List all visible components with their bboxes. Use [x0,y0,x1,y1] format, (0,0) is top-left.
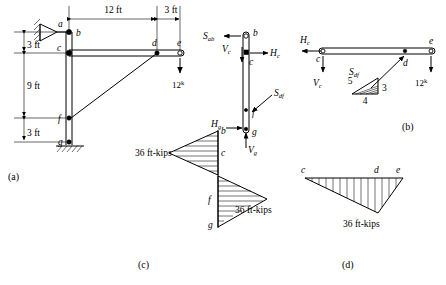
joint-label-c: c [57,43,62,53]
force-V-c-column-label: Vc [222,44,231,55]
joint-markers [66,29,182,144]
column-member [66,32,72,145]
panel-d-label-d: d [374,165,379,175]
panel-c-label-c: c [221,148,226,158]
joint-label-a: a [58,19,63,29]
force-H-g: Hg [210,119,242,130]
slope-horizontal-label: 4 [363,96,368,106]
force-S-df-column-label: Sdf [274,88,285,99]
force-V-g-label: Vg [248,145,258,156]
load-arrow-12k-beam: 12k [415,56,431,88]
force-S-df-column: Sdf [252,88,285,112]
dimension-3ft-upper-label: 3 ft [27,40,40,50]
beam-member [69,50,184,56]
panel-c-upper-area [169,131,218,175]
force-V-c-beam-label: Vc [313,78,322,89]
dimension-9ft: 9 ft [24,55,40,116]
panel-c-label-f: f [208,195,212,205]
beam-fbd-label-e: e [429,36,433,46]
panel-d-label-c: c [301,165,306,175]
panel-d-label: (d) [342,259,354,271]
panel-d-hatch [312,178,396,212]
panel-b-column-fbd: Sab Vc Hc Sdf Hg [203,28,285,156]
joint-label-f: f [58,114,62,124]
fbd-column-label-c: c [249,57,254,67]
dimension-extension-lines-horizontal [69,6,180,50]
panel-c-moment-label-left: 36 ft-kips [135,148,172,158]
fbd-joint-g [244,127,248,131]
force-S-ab-label: Sab [203,31,215,42]
dimension-3ft-upper: 3 ft [24,34,40,51]
load-label-12k-beam: 12k [415,77,428,88]
force-H-c-beam-label: Hc [299,35,310,46]
load-label-12k: 12k [172,79,185,90]
dimension-3ft-lower: 3 ft [24,120,40,140]
fbd-column-label-g: g [252,127,257,137]
force-V-c-column: Vc [222,44,242,62]
dimension-3ft-top: 3 ft [158,5,179,19]
beam-fbd-label-d: d [403,58,408,68]
joint-label-g: g [58,137,63,147]
fbd-joint-c [244,50,249,55]
slope-hypotenuse-label: 5 [348,76,353,86]
beam-fbd-joint-c [321,49,325,53]
figure-canvas: 12 ft 3 ft 3 ft 9 ft 3 ft [0,0,446,285]
slope-triangle-345: 5 3 4 [348,76,387,106]
panel-b-beam-fbd: Hc Vc Sdf 5 3 [299,35,435,133]
panel-d-label-e: e [396,165,400,175]
fbd-joint-b [244,34,248,38]
dimension-3ft-lower-label: 3 ft [27,128,40,138]
dimension-12ft-label: 12 ft [104,5,122,15]
fbd-column-label-b: b [253,28,258,38]
load-arrow-12k: 12k [172,58,185,90]
dimension-12ft: 12 ft [71,5,155,19]
joint-label-d: d [152,38,157,48]
slope-vertical-label: 3 [382,83,387,93]
panel-a-label: (a) [8,171,19,183]
force-S-df-beam: Sdf [349,56,404,88]
joint-label-e: e [177,38,181,48]
beam-fbd-label-c: c [316,54,321,64]
panel-d-moment-diagram: c d e 36 ft-kips (d) [301,165,403,271]
joint-label-b: b [76,28,81,38]
diagonal-brace-member [71,54,156,118]
dimension-9ft-label: 9 ft [27,81,40,91]
panel-d-moment-label: 36 ft-kips [343,219,380,229]
panel-c-moment-label-right: 36 ft-kips [235,205,272,215]
beam-fbd-joint-d [403,49,407,53]
panel-c-upper-hatch [174,136,218,171]
force-H-c-column-label: Hc [269,48,280,59]
panel-c-label-g: g [208,220,213,230]
panel-c-label-b: b [221,126,226,136]
engineering-figure: 12 ft 3 ft 3 ft 9 ft 3 ft [0,0,446,285]
panel-b-label: (b) [402,121,414,133]
fbd-joint-f [244,108,247,111]
force-H-c-column: Hc [250,48,280,59]
force-S-ab: Sab [203,31,241,42]
panel-c-label: (c) [138,259,149,271]
dimension-3ft-top-label: 3 ft [165,5,178,15]
panel-c-lower-area [218,176,267,227]
beam-fbd-joint-e [429,49,433,53]
force-H-c-beam: Hc [299,35,321,51]
